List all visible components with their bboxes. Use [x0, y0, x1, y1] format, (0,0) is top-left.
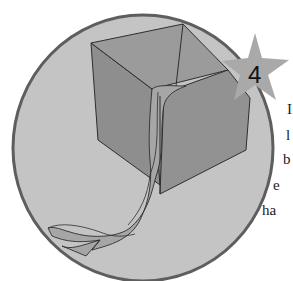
text-fragment-3: b — [283, 152, 291, 167]
text-fragment-4: e — [273, 178, 280, 193]
text-fragment-2: l — [286, 128, 290, 143]
step-illustration: 4 — [0, 0, 293, 281]
text-fragment-1: I — [287, 102, 292, 117]
text-fragment-5: ha — [262, 203, 276, 218]
step-number: 4 — [248, 61, 261, 88]
